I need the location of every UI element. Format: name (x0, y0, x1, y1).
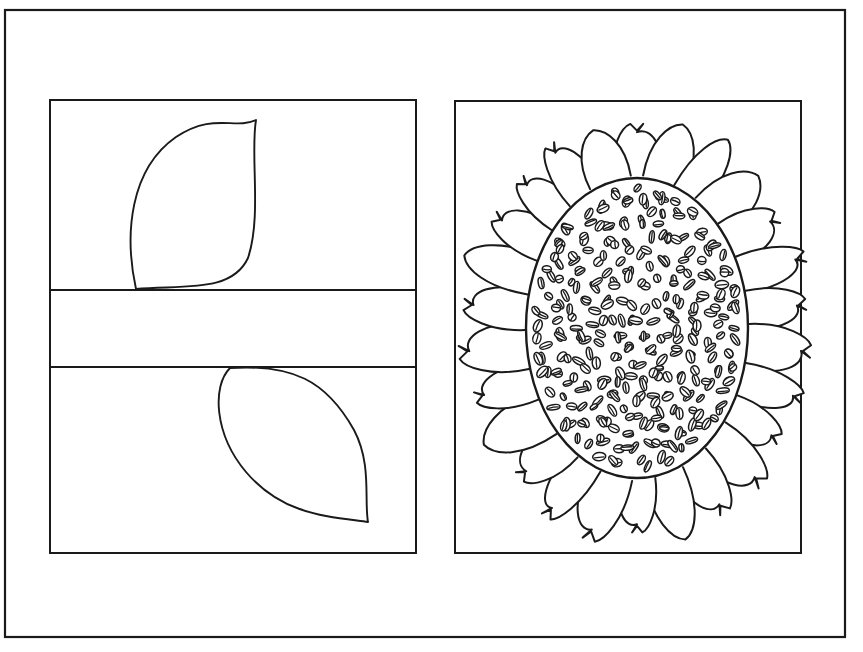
sunflower-seed (597, 434, 605, 442)
sunflower-seed (641, 331, 646, 341)
sunflower-seed (615, 332, 622, 344)
sunflower-seed (671, 345, 681, 352)
sunflower-seed (649, 231, 655, 244)
sunflower-seed (659, 425, 669, 431)
sunflower-seed (679, 443, 685, 451)
coloring-page: Sunflower coloring page (0, 0, 863, 652)
sunflower-seed (567, 304, 573, 315)
sunflower-seed (693, 320, 701, 332)
sunflower-seed (600, 251, 606, 261)
sunflower-seed (592, 452, 606, 461)
sunflower-seed (675, 407, 683, 419)
sunflower-seed (621, 445, 634, 451)
sunflower-seed (670, 280, 679, 286)
sunflower-seed (720, 268, 729, 276)
sunflower-seed (639, 193, 648, 205)
sunflower-seed (610, 240, 619, 249)
sunflower-seed (673, 213, 685, 219)
sunflower-seed (640, 220, 646, 229)
sunflower-seed (615, 377, 620, 388)
sunflower-seed (633, 396, 641, 407)
sunflower-seed (583, 247, 593, 254)
sunflower-seed (716, 387, 729, 394)
sunflower-seed (673, 295, 680, 304)
sunflower-seed (542, 265, 552, 273)
sunflower-seed (697, 256, 706, 264)
sunflower-seed (575, 433, 580, 443)
sunflower-seed (551, 304, 561, 313)
sunflower-seed (701, 378, 711, 386)
sunflower-seed (592, 357, 601, 370)
coloring-page-artwork (0, 0, 863, 652)
sunflower-seed (653, 220, 664, 227)
sunflower-seed (690, 302, 698, 313)
sunflower-seed (624, 372, 637, 380)
sunflower-seed (609, 282, 620, 290)
sunflower-seed (715, 280, 729, 289)
